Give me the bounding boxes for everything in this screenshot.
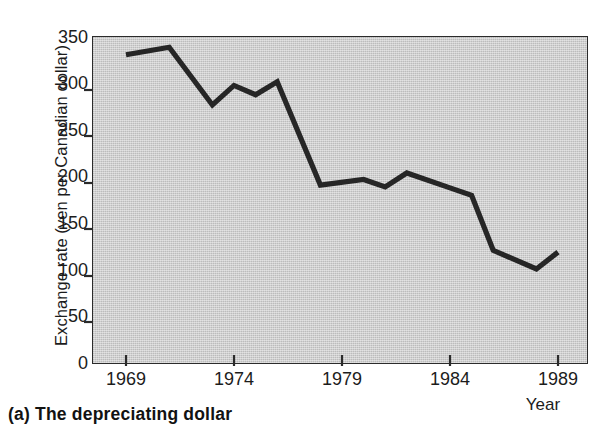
x-tick-label: 1969: [81, 370, 171, 388]
chart-figure: Exchange rate (yen per Canadian dollar) …: [0, 0, 616, 433]
x-tick-label: 1989: [513, 370, 603, 388]
data-line-series-1: [126, 47, 558, 269]
x-tick-label: 1979: [297, 370, 387, 388]
x-tick-label: 1984: [405, 370, 495, 388]
plot-svg: [0, 0, 616, 433]
x-axis-label: Year: [498, 395, 588, 415]
x-axis-ticks: [126, 355, 558, 366]
y-axis-ticks: [84, 90, 93, 322]
x-tick-label: 1974: [189, 370, 279, 388]
x-axis-tick-labels: 1969 1974 1979 1984 1989: [0, 370, 616, 396]
figure-caption: (a) The depreciating dollar: [8, 404, 232, 425]
